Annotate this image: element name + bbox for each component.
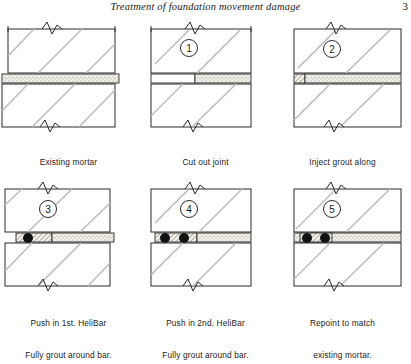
step-marker-5: 5 (324, 201, 341, 218)
panel-5-caption-line-1: Push in 2nd. HeliBar (137, 318, 274, 329)
injected-grout-block (294, 74, 305, 83)
mortar-joint-band (2, 74, 119, 83)
panel-repoint-to-match: 5 Repoint to match existing mortar. (274, 179, 411, 329)
panel-6-drawing: 5 (274, 179, 411, 291)
panel-4-caption: Push in 1st. HeliBar Fully grout around … (0, 297, 137, 364)
step-marker-1-label: 1 (186, 43, 192, 54)
step-marker-2: 2 (324, 41, 341, 58)
panel-4-caption-line-2: Fully grout around bar. (0, 350, 137, 361)
grout-pocket (16, 233, 52, 242)
panel-4-caption-line-1: Push in 1st. HeliBar (0, 318, 137, 329)
panel-3-caption-line-1: Inject grout along (274, 157, 411, 168)
panel-push-in-second-helibar: 4 Push in 2nd. HeliBar Fully grout aroun… (137, 179, 274, 329)
helibar-section-2 (320, 233, 330, 243)
step-marker-1: 1 (181, 40, 198, 57)
panel-inject-grout: 2 Inject grout along rear face of groove… (274, 16, 411, 172)
step-marker-4: 4 (181, 201, 198, 218)
step-marker-5-label: 5 (329, 204, 335, 215)
panel-5-caption-line-2: Fully grout around bar. (137, 350, 274, 361)
panel-1-drawing (0, 16, 137, 134)
panel-cut-out-joint: 1 Cut out joint to 50mm. depth. (137, 16, 274, 172)
mortar-joint-band (305, 74, 401, 83)
panel-6-caption-line-2: existing mortar. (274, 350, 411, 361)
panel-5-drawing: 4 (137, 179, 274, 291)
mortar-joint-band (52, 233, 114, 242)
panel-4-drawing: 3 (0, 179, 137, 291)
panel-2-drawing: 1 (137, 16, 274, 134)
step-marker-3: 3 (40, 201, 57, 218)
mortar-joint-band (195, 74, 251, 83)
helibar-section-2 (179, 233, 189, 243)
running-head: Treatment of foundation movement damage … (0, 0, 411, 16)
panel-6-caption: Repoint to match existing mortar. (274, 297, 411, 364)
helibar-section-1 (302, 233, 312, 243)
helibar-section-1 (160, 233, 170, 243)
step-marker-2-label: 2 (329, 44, 335, 55)
panel-1-caption-line-1: Existing mortar (0, 157, 137, 168)
panel-6-caption-line-1: Repoint to match (274, 318, 411, 329)
step-marker-4-label: 4 (186, 204, 192, 215)
step-marker-3-label: 3 (45, 204, 51, 215)
panel-5-caption: Push in 2nd. HeliBar Fully grout around … (137, 297, 274, 364)
panel-push-in-first-helibar: 3 Push in 1st. HeliBar Fully grout aroun… (0, 179, 137, 329)
panel-existing-mortar-joint: Existing mortar joint. (0, 16, 137, 172)
page-number: 3 (403, 0, 409, 12)
panel-3-drawing: 2 (274, 16, 411, 134)
running-head-title: Treatment of foundation movement damage (0, 1, 411, 12)
panel-2-caption-line-1: Cut out joint (137, 157, 274, 168)
cut-out-groove (151, 74, 195, 83)
mortar-joint-band (197, 233, 251, 242)
panel-grid: Existing mortar joint. (0, 16, 411, 329)
helibar-section-1 (23, 233, 33, 243)
